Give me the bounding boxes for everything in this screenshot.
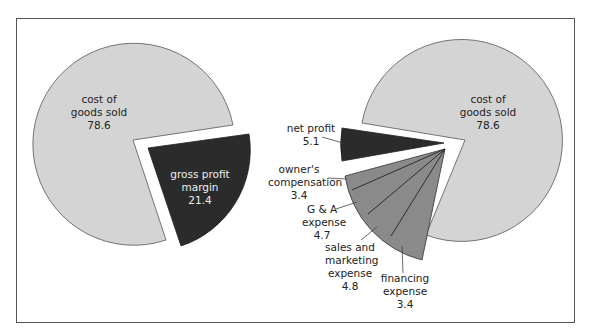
financing-label: financing expense 3.4	[380, 272, 430, 311]
sales-mkt-label: sales and marketing expense 4.8	[325, 241, 375, 293]
ga-expense-label: G & A expense 4.7	[302, 203, 342, 242]
net-profit-label: net profit 5.1	[286, 122, 336, 148]
right-cogs-label: cost of goods sold 78.6	[453, 93, 523, 132]
left-gpm-label: gross profit margin 21.4	[165, 168, 235, 207]
owners-comp-label: owner's compensation 3.4	[268, 163, 330, 202]
left-cogs-label: cost of goods sold 78.6	[64, 93, 134, 132]
